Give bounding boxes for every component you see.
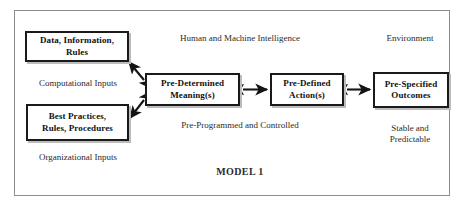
box-pre-determined-meanings-label: Pre-Determined Meaning(s) (158, 78, 227, 101)
box-pre-defined-actions-label: Pre-Defined Action(s) (280, 78, 333, 101)
box-pre-specified-outcomes: Pre-Specified Outcomes (373, 72, 449, 108)
box-data-information-rules-label: Data, Information, Rules (37, 35, 117, 58)
box-best-practices-rules-procedures: Best Practices, Rules, Procedures (26, 104, 129, 141)
diagram-canvas: Data, Information, Rules Best Practices,… (0, 0, 469, 213)
box-pre-specified-outcomes-label: Pre-Specified Outcomes (382, 79, 441, 102)
label-human-and-machine-intelligence: Human and Machine Intelligence (150, 33, 330, 44)
label-stable-and-predictable: Stable and Predictable (364, 123, 456, 145)
box-best-practices-rules-procedures-label: Best Practices, Rules, Procedures (39, 111, 116, 134)
box-pre-defined-actions: Pre-Defined Action(s) (270, 73, 344, 106)
label-environment: Environment (362, 33, 458, 44)
figure-title: MODEL 1 (170, 166, 310, 177)
label-pre-programmed-and-controlled: Pre-Programmed and Controlled (148, 120, 332, 131)
label-organizational-inputs: Organizational Inputs (15, 152, 141, 163)
box-pre-determined-meanings: Pre-Determined Meaning(s) (145, 73, 240, 106)
label-computational-inputs: Computational Inputs (15, 78, 141, 89)
box-data-information-rules: Data, Information, Rules (25, 31, 129, 62)
